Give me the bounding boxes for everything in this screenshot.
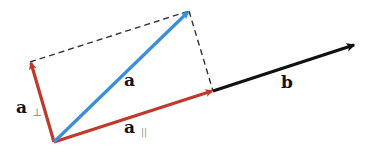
dashed-line-top (30, 11, 189, 62)
label-a-parallel: a || (124, 117, 147, 138)
label-a-parallel-subscript: || (141, 127, 147, 138)
label-a-perp-subscript: ⊥ (32, 106, 42, 119)
vector-projection-diagram: a a || a ⊥ b (0, 0, 375, 145)
label-b: b (281, 72, 293, 92)
label-a-parallel-base: a (124, 117, 135, 137)
label-a-perp-base: a (16, 97, 27, 117)
label-a-perp: a ⊥ (16, 97, 42, 119)
label-a: a (124, 70, 135, 90)
dashed-line-right (189, 11, 213, 91)
vector-a-perp-arrow (31, 63, 54, 142)
vector-a-arrow (54, 12, 188, 142)
